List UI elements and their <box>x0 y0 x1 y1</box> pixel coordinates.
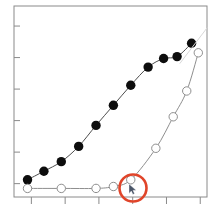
data-point-filled-4 <box>91 121 100 130</box>
series-filled-circles <box>23 39 196 185</box>
chart-screenshot <box>0 0 218 209</box>
data-point-filled-9 <box>172 52 181 61</box>
series-line-filled-circles <box>28 43 192 180</box>
data-point-filled-2 <box>57 157 66 166</box>
series-faint-diagonal-guide <box>180 28 207 63</box>
series-line-faint-diagonal-guide <box>180 28 207 63</box>
data-point-filled-5 <box>109 101 118 110</box>
scatter-plot <box>0 0 218 209</box>
data-point-open-7 <box>183 87 191 95</box>
data-point-open-6 <box>169 113 177 121</box>
data-point-open-8 <box>194 49 202 57</box>
data-point-filled-7 <box>143 62 152 71</box>
data-point-filled-8 <box>159 54 168 63</box>
data-point-open-0 <box>23 184 31 192</box>
cursor-arrow-icon <box>129 184 136 194</box>
series-open-circles <box>23 49 202 193</box>
data-point-filled-3 <box>74 142 83 151</box>
mouse-pointer <box>129 184 136 194</box>
data-point-open-5 <box>152 144 160 152</box>
data-point-filled-6 <box>126 81 135 90</box>
data-point-open-3 <box>109 182 117 190</box>
data-point-open-1 <box>57 184 65 192</box>
data-point-open-2 <box>92 184 100 192</box>
data-point-filled-0 <box>23 175 32 184</box>
data-point-filled-1 <box>39 167 48 176</box>
